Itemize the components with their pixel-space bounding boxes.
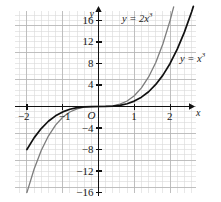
x-tick-label-neg2: −2 (18, 111, 30, 122)
y-tick-label-neg8: −8 (80, 144, 94, 155)
y-tick-label-neg4: −4 (80, 123, 94, 134)
curve-label-y-2x3: y = 2x3 (122, 12, 152, 24)
y-tick-label-4: 4 (86, 79, 94, 90)
y-tick-label-neg12: −12 (72, 166, 94, 177)
cubic-functions-plot (0, 0, 221, 202)
x-tick-label-neg1: −1 (59, 111, 71, 122)
x-tick-label-1: 1 (131, 111, 137, 122)
y-tick-label-12: 12 (78, 36, 94, 47)
x-tick-label-2: 2 (167, 111, 173, 122)
graph-figure: −2−112161284−4−8−12−16Oxyy = 2x3y = x3 (0, 0, 221, 202)
y-axis-label: y (90, 9, 94, 19)
origin-label: O (88, 110, 96, 121)
y-tick-label-neg16: −16 (72, 187, 94, 198)
y-tick-label-8: 8 (86, 58, 94, 69)
x-axis-label: x (196, 108, 200, 118)
curve-label-y-x3: y = x3 (180, 52, 205, 64)
